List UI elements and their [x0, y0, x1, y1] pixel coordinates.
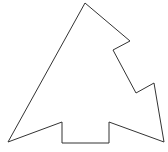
polygon-figure — [0, 0, 168, 152]
diagram-canvas — [0, 0, 168, 152]
irregular-polygon — [8, 3, 164, 143]
